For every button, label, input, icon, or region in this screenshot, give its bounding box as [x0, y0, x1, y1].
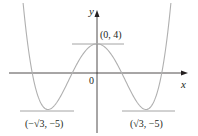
left-minimum-label: (−√3, −5) [25, 118, 63, 130]
y-axis-arrow-icon [95, 10, 100, 17]
right-minimum-label: (√3, −5) [130, 118, 163, 130]
maximum-point-label: (0, 4) [100, 29, 122, 41]
origin-label: 0 [89, 75, 94, 86]
y-axis-label: y [88, 5, 94, 17]
x-axis-label: x [180, 78, 186, 90]
function-graph: y x 0 (0, 4) (−√3, −5) (√3, −5) [0, 0, 198, 136]
x-axis-arrow-icon [181, 71, 188, 76]
